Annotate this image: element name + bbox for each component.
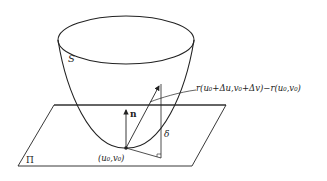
distance-label: δ — [164, 130, 169, 139]
surface-label: S — [68, 54, 75, 64]
normal-label: n — [130, 110, 137, 119]
surface-rim — [58, 16, 194, 64]
vector-label: r(u₀+Δu,v₀+Δv)−r(u₀,v₀) — [196, 84, 301, 93]
right-angle-marker — [157, 154, 161, 157]
projection-line — [126, 148, 161, 158]
base-point — [124, 146, 128, 150]
label-leader-line — [150, 90, 196, 102]
plane-label: Π — [26, 156, 34, 165]
point-label: (u₀,v₀) — [98, 154, 124, 163]
